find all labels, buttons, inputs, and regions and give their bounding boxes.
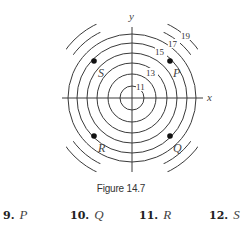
contour-label-19: 19 bbox=[181, 31, 191, 41]
exercise-variable: S bbox=[233, 207, 240, 222]
exercise-item: 10.Q bbox=[70, 207, 104, 223]
figure-caption: Figure 14.7 bbox=[0, 183, 242, 194]
exercise-number: 12. bbox=[209, 209, 228, 222]
exercise-number: 9. bbox=[3, 209, 14, 222]
point-label-q: Q bbox=[173, 141, 182, 155]
contour-plot: 11 13 15 17 19 y x S P R Q bbox=[0, 0, 242, 232]
exercise-variable: R bbox=[163, 207, 171, 222]
contour-label-13: 13 bbox=[146, 68, 156, 78]
contour-label-17: 17 bbox=[168, 39, 178, 49]
exercise-item: 11.R bbox=[139, 207, 171, 223]
point-label-r: R bbox=[97, 141, 106, 155]
contour-label-11: 11 bbox=[136, 82, 145, 92]
exercise-item: 12.S bbox=[209, 207, 240, 223]
exercise-list: 9.P 10.Q 11.R 12.S bbox=[0, 207, 242, 223]
point-r bbox=[91, 133, 97, 139]
point-label-s: S bbox=[98, 66, 104, 80]
exercise-number: 11. bbox=[139, 209, 158, 222]
exercise-variable: Q bbox=[94, 207, 103, 222]
exercise-number: 10. bbox=[70, 209, 89, 222]
exercise-variable: P bbox=[19, 207, 27, 222]
exercise-item: 9.P bbox=[3, 207, 27, 223]
contour-label-15: 15 bbox=[155, 47, 165, 57]
point-q bbox=[167, 133, 173, 139]
point-s bbox=[91, 58, 97, 64]
point-p bbox=[167, 58, 173, 64]
x-axis-label: x bbox=[206, 91, 212, 103]
y-axis-label: y bbox=[128, 10, 134, 22]
point-label-p: P bbox=[172, 66, 181, 80]
contour-figure: 11 13 15 17 19 y x S P R Q bbox=[0, 0, 242, 232]
